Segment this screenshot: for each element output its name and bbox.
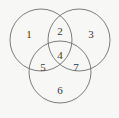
region-label-6: 6 xyxy=(53,85,67,96)
region-label-3: 3 xyxy=(84,29,98,40)
region-label-2: 2 xyxy=(53,26,67,37)
venn-diagram: 1 2 3 4 5 6 7 xyxy=(0,0,119,118)
region-label-4: 4 xyxy=(53,50,67,61)
region-label-5: 5 xyxy=(36,62,50,73)
region-label-1: 1 xyxy=(22,29,36,40)
region-label-7: 7 xyxy=(69,62,83,73)
